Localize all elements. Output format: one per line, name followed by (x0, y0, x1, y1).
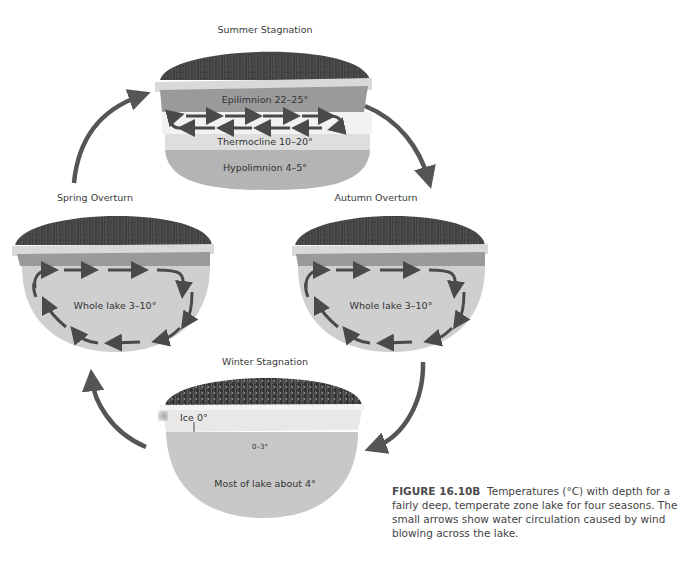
summer-grass (160, 52, 370, 80)
figure-id: FIGURE 16.10B (392, 485, 480, 497)
autumn-panel (292, 216, 488, 352)
figure-caption: FIGURE 16.10B Temperatures (°C) with dep… (392, 484, 692, 540)
surface-temp-label: 0–3° (230, 443, 290, 451)
summer-title: Summer Stagnation (200, 24, 330, 35)
lake-seasons-diagram: Summer Stagnation Spring Overturn Autumn… (0, 0, 694, 567)
autumn-title: Autumn Overturn (316, 192, 436, 203)
spring-title: Spring Overturn (35, 192, 155, 203)
autumn-to-winter-arrow (375, 362, 423, 447)
epilimnion-label: Epilimnion 22–25° (200, 94, 330, 105)
winter-title: Winter Stagnation (200, 356, 330, 367)
spring-panel (12, 216, 214, 352)
diagram-graphics (0, 0, 694, 567)
summer-to-autumn-arrow (365, 106, 428, 178)
thermocline-label: Thermocline 10–20° (195, 136, 335, 147)
deep-lake-label: Most of lake about 4° (195, 478, 335, 489)
hypolimnion-label: Hypolimnion 4–5° (195, 162, 335, 173)
spring-whole-lake-label: Whole lake 3–10° (60, 300, 170, 311)
spring-to-summer-arrow (74, 96, 140, 183)
winter-to-spring-arrow (92, 380, 146, 447)
ice-label: Ice 0° (180, 412, 220, 423)
autumn-whole-lake-label: Whole lake 3–10° (336, 300, 446, 311)
